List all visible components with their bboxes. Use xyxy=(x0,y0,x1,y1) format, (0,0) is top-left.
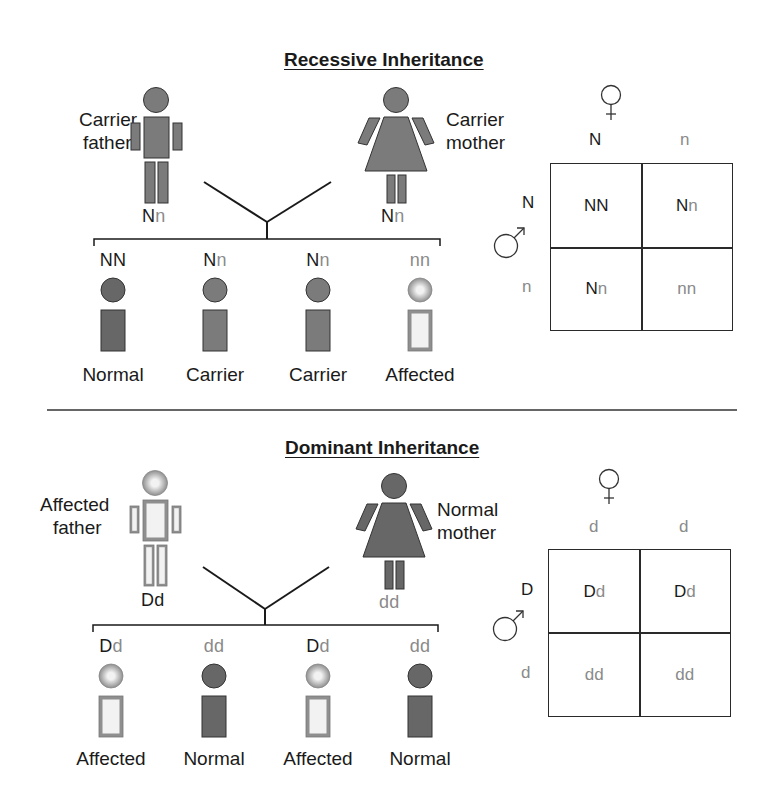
male-symbol xyxy=(492,607,528,647)
child-genotype: nn xyxy=(400,250,440,271)
head xyxy=(306,664,330,688)
child-status-label: Affected xyxy=(268,747,368,770)
punnett-cell: dd xyxy=(549,633,640,716)
head xyxy=(408,278,432,302)
child-body xyxy=(202,696,226,737)
allele: d xyxy=(685,665,694,685)
punnett-cell: Dd xyxy=(640,550,731,633)
dominant-punnett-square: DdDddddd xyxy=(548,549,731,717)
child-figure xyxy=(199,664,229,744)
child-genotype: Dd xyxy=(298,636,338,657)
child-figure xyxy=(405,278,435,358)
punnett-cell: nn xyxy=(642,247,733,330)
child-genotype: Dd xyxy=(91,636,131,657)
allele: n xyxy=(688,196,697,216)
child-figure xyxy=(405,664,435,744)
torso-highlight xyxy=(147,504,165,538)
child-genotype: dd xyxy=(194,636,234,657)
head xyxy=(143,471,168,496)
dominant-title: Dominant Inheritance xyxy=(285,437,479,459)
allele: d xyxy=(585,665,594,685)
allele: N xyxy=(676,196,688,216)
child-body xyxy=(408,696,432,737)
dominant-father-genotype: Dd xyxy=(141,590,165,611)
right-arm-highlight xyxy=(174,508,179,531)
allele: n xyxy=(410,250,420,270)
allele: d xyxy=(594,665,603,685)
allele: n xyxy=(522,277,531,296)
female-symbol-icon xyxy=(596,467,622,507)
left-leg-highlight xyxy=(146,547,152,584)
allele: d xyxy=(596,582,605,602)
mother-label-line2: mother xyxy=(437,521,498,544)
child-body-highlight xyxy=(310,700,327,734)
allele: D xyxy=(141,590,154,610)
allele: n xyxy=(598,279,607,299)
right-leg xyxy=(396,561,404,589)
allele: d xyxy=(204,636,214,656)
allele: N xyxy=(584,196,596,216)
allele: d xyxy=(410,636,420,656)
allele: d xyxy=(154,590,164,610)
punnett-female-allele-1: N xyxy=(589,130,601,150)
allele: n xyxy=(217,250,227,270)
dominant-father-label: Affected father xyxy=(40,493,109,539)
head xyxy=(382,474,407,499)
punnett-male-allele-1: N xyxy=(522,193,534,213)
recessive-punnett-square: NNNnNnnn xyxy=(550,163,733,331)
left-arm-highlight xyxy=(132,508,137,531)
head xyxy=(203,278,227,302)
recessive-offspring-bracket xyxy=(94,239,440,246)
allele: N xyxy=(100,250,113,270)
child-genotype: NN xyxy=(93,250,133,271)
punnett-cell: NN xyxy=(551,164,642,247)
dominant-mother-genotype: dd xyxy=(379,592,400,613)
allele: d xyxy=(686,582,695,602)
child-body xyxy=(306,310,330,351)
child-status-label: Affected xyxy=(370,363,470,386)
child-body-highlight xyxy=(103,700,120,734)
dominant-mother-label: Normal mother xyxy=(437,498,498,544)
allele: N xyxy=(522,193,534,212)
allele: D xyxy=(674,582,686,602)
child-status-label: Carrier xyxy=(268,363,368,386)
child-body-highlight xyxy=(412,314,429,348)
allele: d xyxy=(521,663,530,682)
allele: d xyxy=(214,636,224,656)
child-status-label: Affected xyxy=(61,747,161,770)
child-figure xyxy=(200,278,230,358)
allele: d xyxy=(389,592,399,612)
allele: N xyxy=(596,196,608,216)
child-status-label: Normal xyxy=(63,363,163,386)
head xyxy=(99,664,123,688)
punnett-male-allele-2: d xyxy=(521,663,530,683)
allele: N xyxy=(306,250,319,270)
punnett-female-allele-2: n xyxy=(680,130,689,150)
allele: N xyxy=(589,130,601,149)
head xyxy=(101,278,125,302)
male-symbol-icon xyxy=(493,224,529,260)
allele: D xyxy=(521,580,533,599)
punnett-cell: Nn xyxy=(551,247,642,330)
allele: N xyxy=(585,279,597,299)
allele: D xyxy=(583,582,595,602)
male-figure xyxy=(127,470,183,588)
female-symbol xyxy=(596,467,622,511)
child-body xyxy=(101,310,125,351)
male-symbol xyxy=(493,224,529,264)
child-figure xyxy=(303,664,333,744)
punnett-male-allele-1: D xyxy=(521,580,533,600)
allele: D xyxy=(99,636,112,656)
punnett-female-allele-2: d xyxy=(679,517,688,537)
allele: n xyxy=(420,250,430,270)
child-figure xyxy=(96,664,126,744)
allele: n xyxy=(320,250,330,270)
child-figure xyxy=(303,278,333,358)
allele: d xyxy=(679,517,688,536)
male-symbol-icon xyxy=(492,607,528,643)
allele: D xyxy=(306,636,319,656)
allele: d xyxy=(113,636,123,656)
allele: n xyxy=(687,279,696,299)
head xyxy=(408,664,432,688)
allele: n xyxy=(677,279,686,299)
